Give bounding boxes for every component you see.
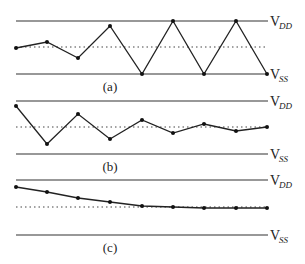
panel-c: VDDVSS(c): [14, 173, 292, 255]
vdd-subscript: DD: [278, 21, 292, 31]
panel-caption: (a): [103, 79, 117, 94]
data-point: [14, 46, 18, 50]
panel-b: VDDVSS(b): [14, 94, 292, 174]
vdd-subscript: DD: [278, 180, 292, 190]
data-point: [14, 185, 18, 189]
data-point: [76, 112, 80, 116]
vdd-subscript: DD: [278, 101, 292, 111]
data-point: [171, 131, 175, 135]
data-point: [76, 56, 80, 60]
data-point: [265, 72, 269, 76]
data-point: [108, 137, 112, 141]
data-point: [265, 206, 269, 210]
data-point: [108, 200, 112, 204]
data-point: [108, 24, 112, 28]
data-point: [45, 142, 49, 146]
data-point: [171, 19, 175, 23]
panel-caption: (c): [103, 240, 117, 255]
data-point: [202, 72, 206, 76]
data-point: [140, 204, 144, 208]
data-point: [234, 206, 238, 210]
waveform: [16, 21, 267, 74]
data-point: [140, 118, 144, 122]
data-point: [140, 72, 144, 76]
vss-subscript: SS: [279, 154, 289, 164]
panel-caption: (b): [102, 159, 117, 174]
data-point: [76, 196, 80, 200]
data-point: [234, 19, 238, 23]
data-point: [171, 205, 175, 209]
data-point: [45, 190, 49, 194]
data-point: [202, 122, 206, 126]
vss-subscript: SS: [279, 74, 289, 84]
data-point: [265, 125, 269, 129]
data-point: [202, 206, 206, 210]
diagram: VDDVSS(a)VDDVSS(b)VDDVSS(c): [0, 0, 305, 264]
data-point: [234, 129, 238, 133]
panel-a: VDDVSS(a): [14, 14, 292, 94]
data-point: [14, 104, 18, 108]
data-point: [45, 40, 49, 44]
vss-subscript: SS: [279, 235, 289, 245]
waveform: [16, 106, 267, 144]
